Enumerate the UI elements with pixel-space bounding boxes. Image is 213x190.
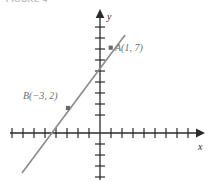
arrow-up-icon [96, 9, 105, 18]
y-axis-label: y [106, 11, 112, 22]
point-label-a: A(1, 7) [114, 42, 143, 54]
figure-container: FIGURE 4 [0, 0, 213, 190]
plotted-line [22, 35, 125, 173]
point-marker-b [66, 106, 70, 110]
coordinate-plane: A(1, 7) B(−3, 2) y x [0, 0, 213, 190]
x-axis-label: x [197, 141, 203, 152]
arrow-right-icon [196, 129, 205, 138]
point-label-b: B(−3, 2) [23, 90, 58, 102]
point-marker-a [109, 46, 113, 50]
